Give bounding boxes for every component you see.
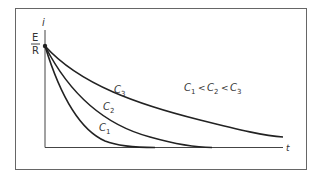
diagram-canvas: i t E R C 1 C 2 C 3 C 1 < C 2 < C 3 [0,0,320,177]
label-c1: C 1 [99,122,110,136]
svg-text:3: 3 [237,88,241,96]
svg-text:C: C [184,82,191,93]
label-c3: C 3 [114,84,125,98]
x-axis-label: t [286,143,290,153]
e-label: E [32,32,38,43]
frame-border [16,9,307,170]
svg-text:<: < [198,83,206,93]
svg-text:<: < [221,83,229,93]
curve-c2 [45,46,212,148]
r-label: R [32,45,39,56]
capacitance-inequality: C 1 < C 2 < C 3 [184,82,241,96]
svg-text:C: C [207,82,214,93]
svg-text:2: 2 [110,107,114,115]
y-axis-label: i [42,17,45,28]
svg-text:3: 3 [121,90,125,98]
svg-text:C: C [230,82,237,93]
svg-text:1: 1 [106,128,110,136]
svg-text:1: 1 [191,88,195,96]
curve-c3 [45,46,283,137]
svg-text:C: C [114,84,121,95]
svg-text:C: C [103,101,110,112]
label-c2: C 2 [103,101,114,115]
svg-text:2: 2 [214,88,218,96]
svg-text:C: C [99,122,106,133]
e-over-r-label: E R [31,32,40,56]
